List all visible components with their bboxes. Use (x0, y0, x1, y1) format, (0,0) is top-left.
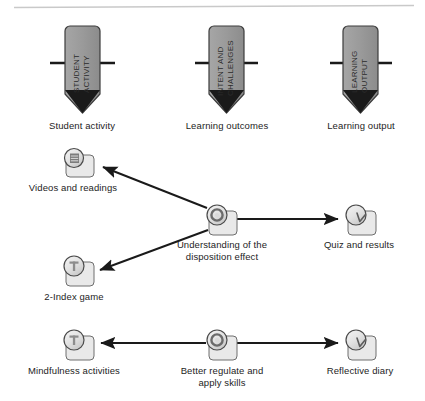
diagram-graphic: STUDENT ACTIVITY INTENT AND CHALLENGES L… (0, 0, 425, 401)
swimlane-caption-student-activity: Student activity (22, 120, 142, 132)
node-icon-two-index-game[interactable] (64, 256, 94, 286)
swimlane-caption-learning-outcomes: Learning outcomes (167, 120, 287, 132)
node-caption-videos-and-readings: Videos and readings (13, 182, 133, 194)
node-icon-videos-and-readings[interactable] (65, 149, 95, 178)
swimlane-marker-learning-outcomes[interactable]: INTENT AND CHALLENGES (195, 26, 258, 113)
node-icon-mindfulness-activities[interactable] (64, 330, 94, 360)
node-caption-quiz-and-results: Quiz and results (305, 239, 413, 251)
swimlane-vertical-label-line1: INTENT AND (216, 47, 225, 96)
node-icon-understanding-disposition-effect[interactable] (207, 205, 237, 235)
node-icon-quiz-and-results[interactable] (346, 205, 376, 235)
swimlane-caption-learning-output: Learning output (301, 120, 421, 132)
target-center-glyph (215, 338, 219, 342)
swimlane-vertical-label-line1: LEARNING (350, 51, 359, 94)
node-icon-better-regulate-apply-skills[interactable] (207, 330, 237, 360)
node-caption-mindfulness-activities: Mindfulness activities (14, 365, 134, 377)
swimlane-marker-learning-output[interactable]: LEARNING OUTPUT (330, 26, 392, 113)
node-caption-understanding-disposition-effect: Understanding of the disposition effect (164, 239, 280, 263)
node-caption-better-regulate-apply-skills: Better regulate and apply skills (165, 365, 279, 389)
top-divider-rule (14, 6, 414, 8)
swimlane-vertical-label-line2: OUTPUT (360, 59, 369, 93)
swimlane-vertical-label-line2: CHALLENGES (226, 40, 235, 96)
sphere-shape (346, 330, 366, 350)
swimlane-vertical-label-line1: STUDENT (72, 54, 81, 93)
target-center-glyph (215, 213, 219, 217)
swimlane-marker-student-activity[interactable]: STUDENT ACTIVITY (50, 26, 115, 113)
diagram-canvas: STUDENT ACTIVITY INTENT AND CHALLENGES L… (0, 0, 425, 401)
node-caption-reflective-diary: Reflective diary (306, 365, 414, 377)
node-caption-two-index-game: 2-Index game (24, 291, 124, 303)
swimlane-vertical-label-line2: ACTIVITY (82, 55, 91, 93)
node-icon-reflective-diary[interactable] (346, 330, 376, 360)
sphere-shape (346, 205, 366, 225)
